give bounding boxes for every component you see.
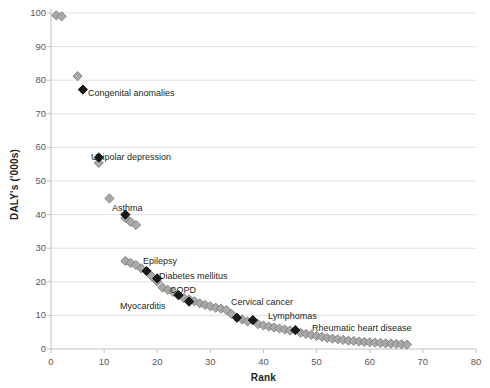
- x-tick-label: 60: [350, 356, 390, 367]
- data-point-marker: [73, 72, 82, 81]
- point-label: Congenital anomalies: [88, 88, 175, 98]
- point-label: Rheumatic heart disease: [312, 323, 412, 333]
- x-axis-title: Rank: [204, 372, 324, 383]
- y-tick-label: 10: [14, 309, 46, 320]
- x-tick-label: 30: [190, 356, 230, 367]
- point-label: Asthma: [112, 203, 143, 213]
- y-axis-title: DALY's ('000s): [9, 149, 20, 220]
- y-tick-label: 20: [14, 276, 46, 287]
- point-label: COPD: [170, 285, 196, 295]
- y-tick-label: 70: [14, 108, 46, 119]
- x-tick-label: 40: [244, 356, 284, 367]
- x-tick-label: 20: [137, 356, 177, 367]
- x-tick-label: 50: [297, 356, 337, 367]
- y-tick-label: 0: [14, 343, 46, 354]
- y-tick-marks: [47, 13, 51, 349]
- x-tick-label: 70: [403, 356, 443, 367]
- chart-canvas: [0, 0, 490, 388]
- y-tick-label: 30: [14, 242, 46, 253]
- gridlines: [51, 13, 476, 315]
- point-label: Diabetes mellitus: [159, 271, 228, 281]
- y-tick-label: 100: [14, 7, 46, 18]
- point-label: Unipolar depression: [91, 152, 171, 162]
- data-point-marker: [105, 194, 114, 203]
- point-label: Lymphomas: [268, 311, 317, 321]
- x-tick-label: 10: [84, 356, 124, 367]
- y-tick-label: 80: [14, 74, 46, 85]
- data-point-marker: [78, 85, 87, 94]
- scatter-chart: 010203040506070809010001020304050607080C…: [0, 0, 490, 388]
- point-label: Epilepsy: [143, 256, 177, 266]
- point-label: Cervical cancer: [231, 297, 293, 307]
- x-tick-label: 0: [31, 356, 71, 367]
- x-tick-marks: [51, 349, 476, 353]
- point-label: Myocarditis: [120, 301, 166, 311]
- y-tick-label: 90: [14, 41, 46, 52]
- x-tick-label: 80: [456, 356, 490, 367]
